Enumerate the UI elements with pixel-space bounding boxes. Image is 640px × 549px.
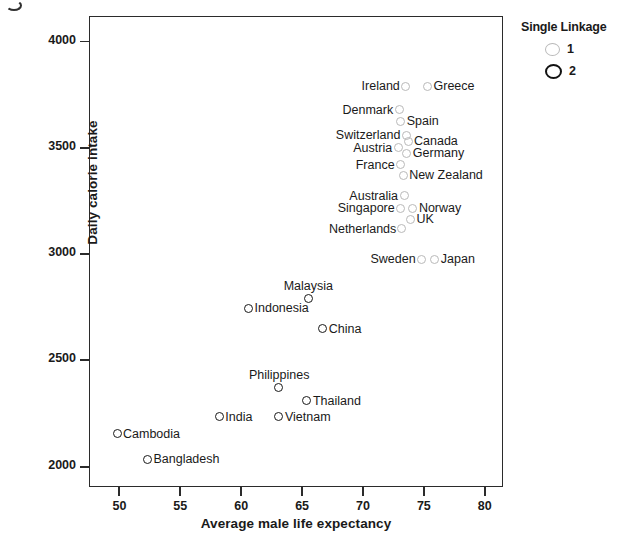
data-point-label: Austria	[353, 142, 392, 155]
corner-artifact-icon	[6, 0, 22, 11]
x-tick-mark	[423, 487, 425, 496]
data-point-label: UK	[416, 213, 433, 226]
data-point	[396, 117, 405, 126]
legend-swatch-circle-icon	[545, 64, 562, 79]
data-point	[402, 149, 411, 158]
x-tick-label: 60	[225, 499, 257, 513]
x-axis-title: Average male life expectancy	[89, 516, 503, 531]
legend: Single Linkage 12	[521, 20, 636, 84]
legend-swatch-circle-icon	[545, 43, 560, 56]
data-point-label: Cambodia	[123, 428, 180, 441]
data-point	[417, 255, 426, 264]
x-tick-mark	[362, 487, 364, 496]
data-point-label: France	[356, 159, 395, 172]
x-tick-mark	[484, 487, 486, 496]
x-tick-label: 80	[469, 499, 501, 513]
data-point	[423, 82, 432, 91]
x-tick-mark	[240, 487, 242, 496]
data-point-label: Australia	[349, 190, 398, 203]
data-point-label: New Zealand	[409, 169, 483, 182]
legend-entry-label: 1	[567, 42, 574, 56]
y-tick-mark	[80, 253, 89, 255]
data-point-label: Singapore	[338, 202, 395, 215]
y-tick-mark	[80, 359, 89, 361]
y-tick-label: 3500	[48, 139, 76, 153]
legend-entry-label: 2	[569, 64, 576, 78]
data-point	[406, 215, 415, 224]
x-tick-label: 70	[347, 499, 379, 513]
y-tick-mark	[80, 466, 89, 468]
x-tick-label: 55	[164, 499, 196, 513]
data-point	[274, 383, 283, 392]
x-tick-label: 65	[286, 499, 318, 513]
data-point-label: Denmark	[343, 104, 394, 117]
data-point	[143, 455, 152, 464]
scatter-plot-figure: Daily calorie intake Average male life e…	[0, 0, 640, 549]
data-point	[401, 82, 410, 91]
data-point	[395, 105, 404, 114]
data-point-label: Sweden	[370, 253, 415, 266]
y-tick-label: 2500	[48, 351, 76, 365]
legend-title: Single Linkage	[521, 20, 636, 34]
x-tick-mark	[179, 487, 181, 496]
data-point-label: India	[225, 411, 252, 424]
data-point-label: Netherlands	[329, 223, 396, 236]
x-tick-mark	[118, 487, 120, 496]
data-point	[404, 137, 413, 146]
data-point	[399, 171, 408, 180]
x-tick-label: 75	[408, 499, 440, 513]
data-point	[113, 429, 122, 438]
legend-entry[interactable]: 1	[545, 40, 636, 58]
legend-entry[interactable]: 2	[545, 62, 636, 80]
x-tick-mark	[301, 487, 303, 496]
data-point-label: Spain	[407, 115, 439, 128]
y-tick-label: 3000	[48, 245, 76, 259]
data-point-label: Germany	[413, 147, 464, 160]
data-point-label: Thailand	[313, 395, 361, 408]
data-point-label: Vietnam	[285, 411, 331, 424]
data-point-label: Philippines	[249, 369, 309, 382]
y-tick-label: 4000	[48, 33, 76, 47]
data-point-label: Ireland	[362, 80, 400, 93]
x-tick-label: 50	[103, 499, 135, 513]
data-point-label: Greece	[434, 80, 475, 93]
y-tick-mark	[80, 147, 89, 149]
data-point	[400, 191, 409, 200]
data-point-label: Switzerland	[336, 129, 401, 142]
data-point-label: Indonesia	[255, 302, 309, 315]
y-tick-mark	[80, 41, 89, 43]
legend-entries: 12	[521, 40, 636, 80]
data-point-label: Malaysia	[284, 280, 333, 293]
data-point-label: China	[329, 323, 362, 336]
data-point-label: Bangladesh	[153, 453, 219, 466]
data-point-label: Japan	[441, 253, 475, 266]
y-tick-label: 2000	[48, 458, 76, 472]
data-point	[244, 304, 253, 313]
